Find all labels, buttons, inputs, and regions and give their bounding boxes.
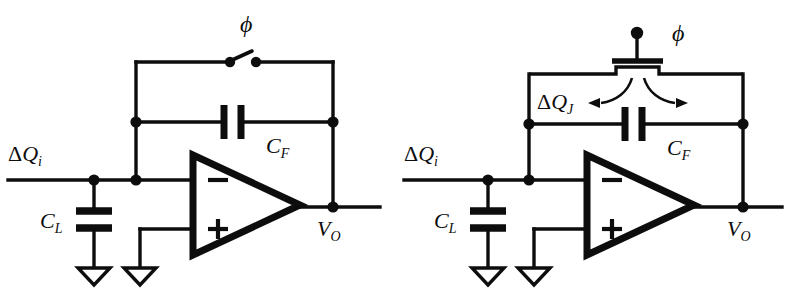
left-load-cap-subscript: L <box>55 221 63 236</box>
switch-contact-left <box>225 57 235 67</box>
left-ground-noninverting-icon <box>124 268 156 285</box>
injected-charge-label: ΔQJ <box>537 91 573 113</box>
left-output-voltage-label: VO <box>317 218 341 240</box>
charge-injection-arrow-left-head <box>588 98 600 108</box>
left-circuit-group <box>8 51 380 285</box>
circuit-figure: ϕ ΔQi CL CF VO ϕ ΔQJ ΔQi CL CF VO <box>0 0 788 293</box>
left-load-cap-label: CL <box>40 210 62 232</box>
left-input-charge-label: ΔQi <box>8 143 42 165</box>
right-output-voltage-symbol: V <box>727 216 740 241</box>
right-node-summing-junction <box>523 174 534 185</box>
right-load-cap-subscript: L <box>449 221 457 236</box>
injected-charge-delta: Δ <box>537 89 551 114</box>
right-load-cap-label: CL <box>434 210 456 232</box>
right-load-cap-symbol: C <box>434 208 449 233</box>
left-feedback-cap-subscript: F <box>281 146 290 161</box>
left-feedback-cap-symbol: C <box>266 133 281 158</box>
left-ground-load-icon <box>78 268 110 285</box>
right-noninverting-ground-branch <box>518 229 587 285</box>
switch-contact-right <box>251 57 261 67</box>
left-reset-switch[interactable] <box>136 51 333 122</box>
right-clock-phase-label: ϕ <box>672 21 684 45</box>
right-mosfet-switch[interactable] <box>529 27 743 74</box>
left-node-output <box>327 201 338 212</box>
right-input-charge-delta: Δ <box>404 141 418 166</box>
right-circuit-group <box>404 27 782 285</box>
charge-injection-arrows <box>588 78 688 108</box>
left-opamp-triangle <box>193 155 300 255</box>
mosfet-channel-body <box>529 67 743 74</box>
right-load-capacitor <box>470 180 506 268</box>
right-feedback-cap-symbol: C <box>667 135 682 160</box>
injected-charge-q: Q <box>551 89 567 114</box>
left-input-charge-delta: Δ <box>8 141 22 166</box>
left-clock-phase-label: ϕ <box>240 12 252 36</box>
right-node-output <box>737 201 748 212</box>
right-input-charge-label: ΔQi <box>404 143 438 165</box>
right-feedback-cap-subscript: F <box>682 148 691 163</box>
left-input-charge-subscript: i <box>38 154 42 169</box>
left-output-voltage-subscript: O <box>330 229 340 244</box>
left-feedback-cap-branch <box>136 105 333 139</box>
left-noninverting-ground-branch <box>124 229 193 285</box>
charge-injection-arrow-right-head <box>676 98 688 108</box>
right-opamp-triangle <box>587 155 694 255</box>
left-input-charge-q: Q <box>22 141 38 166</box>
injected-charge-subscript: J <box>567 102 573 117</box>
right-input-charge-subscript: i <box>434 154 438 169</box>
right-ground-load-icon <box>472 268 504 285</box>
charge-injection-arrow-right-curve <box>644 78 675 103</box>
right-feedback-cap-label: CF <box>667 137 690 159</box>
left-output-voltage-symbol: V <box>317 216 330 241</box>
right-output-voltage-label: VO <box>727 218 751 240</box>
left-load-cap-symbol: C <box>40 208 55 233</box>
right-output-voltage-subscript: O <box>740 229 750 244</box>
right-ground-noninverting-icon <box>518 268 550 285</box>
charge-injection-arrow-left-curve <box>601 78 632 103</box>
left-feedback-cap-label: CF <box>266 135 289 157</box>
left-load-capacitor <box>76 180 112 268</box>
right-input-charge-q: Q <box>418 141 434 166</box>
left-node-summing-junction <box>130 174 141 185</box>
